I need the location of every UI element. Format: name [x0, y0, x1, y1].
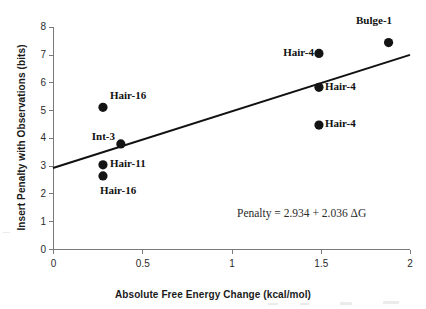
- y-tick-label: 3: [24, 160, 46, 171]
- y-tick-label: 4: [24, 132, 46, 143]
- scan-artifact: [268, 303, 278, 305]
- x-axis-title: Absolute Free Energy Change (kcal/mol): [0, 289, 426, 300]
- y-tick-label: 7: [24, 49, 46, 60]
- y-tick-label: 0: [24, 244, 46, 255]
- x-tick-label: 0: [39, 258, 69, 269]
- scan-artifact: [340, 302, 352, 305]
- scan-artifact: [383, 301, 399, 304]
- trend-line: [53, 55, 410, 168]
- point-label-bulge-1: Bulge-1: [356, 15, 392, 26]
- x-tick-label: 2: [395, 258, 425, 269]
- point-label-hair-4-mid: Hair-4: [325, 81, 356, 92]
- point-label-hair-16-lower: Hair-16: [100, 185, 136, 196]
- x-tick-label: 0.5: [128, 258, 158, 269]
- y-axis-title: Insert Penalty with Observations (bits): [16, 18, 27, 258]
- scatter-chart-figure: 8 7 6 5 4 3 2 1 0 0 0.5 1 1.5 2 Absolute…: [0, 0, 426, 309]
- data-point-marker: [314, 83, 323, 92]
- data-point-marker: [314, 120, 323, 129]
- data-point-marker: [98, 103, 107, 112]
- x-tick-label: 1: [217, 258, 247, 269]
- y-tick-label: 2: [24, 188, 46, 199]
- regression-equation-annotation: Penalty = 2.934 + 2.036 ΔG: [237, 207, 366, 219]
- x-tick-marks: [54, 250, 411, 255]
- y-tick-marks: [49, 27, 53, 249]
- y-tick-label: 6: [24, 77, 46, 88]
- point-label-hair-4-low: Hair-4: [325, 118, 356, 129]
- scan-artifact: [300, 303, 309, 305]
- data-point-marker: [116, 139, 125, 148]
- data-point-marker: [98, 160, 107, 169]
- y-tick-label: 5: [24, 105, 46, 116]
- point-label-int-3: Int-3: [60, 131, 115, 142]
- point-label-hair-4-top: Hair-4: [257, 47, 314, 58]
- data-point-marker: [314, 49, 323, 58]
- point-label-hair-16-upper: Hair-16: [110, 90, 146, 101]
- y-tick-label: 1: [24, 216, 46, 227]
- data-point-marker: [98, 171, 107, 180]
- point-label-hair-11: Hair-11: [110, 158, 146, 169]
- y-tick-label: 8: [24, 21, 46, 32]
- x-tick-label: 1.5: [306, 258, 336, 269]
- data-point-marker: [384, 38, 393, 47]
- scan-artifact: [3, 232, 10, 233]
